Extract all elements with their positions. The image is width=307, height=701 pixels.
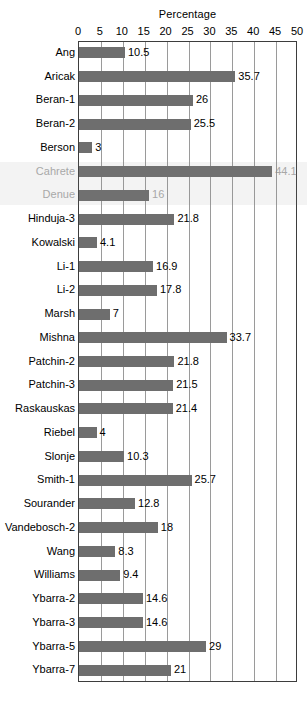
bar: [79, 214, 174, 225]
bar-value-label: 29: [209, 635, 221, 659]
category-label: Slonje: [44, 445, 75, 469]
bar-row: Denue16: [0, 183, 307, 207]
category-label: Smith-1: [37, 468, 75, 492]
category-label: Berson: [40, 136, 75, 160]
bar-value-label: 21.4: [176, 397, 197, 421]
bar-row: Smith-125.7: [0, 468, 307, 492]
bar: [79, 403, 173, 414]
bar: [79, 380, 173, 391]
category-label: Aricak: [44, 65, 75, 89]
axis-title: Percentage: [78, 8, 297, 21]
category-label: Hinduja-3: [28, 207, 75, 231]
bar-row: Wang8.3: [0, 540, 307, 564]
category-label: Beran-1: [36, 88, 75, 112]
category-label: Marsh: [44, 302, 75, 326]
bar: [79, 665, 171, 676]
bar-value-label: 21: [174, 658, 186, 682]
bar-row: Ang10.5: [0, 41, 307, 65]
bar: [79, 332, 227, 343]
bar-row: Beran-126: [0, 88, 307, 112]
bar-row: Williams9.4: [0, 563, 307, 587]
bar: [79, 427, 97, 438]
bar-row: Aricak35.7: [0, 65, 307, 89]
bar: [79, 522, 158, 533]
category-label: Ybarra-7: [32, 658, 75, 682]
bar-value-label: 26: [196, 88, 208, 112]
bar-row: Patchin-221.8: [0, 350, 307, 374]
bar-row: Raskauskas21.4: [0, 397, 307, 421]
bar-row: Beran-225.5: [0, 112, 307, 136]
bar-value-label: 33.7: [230, 326, 251, 350]
bar: [79, 95, 193, 106]
bar-value-label: 18: [161, 516, 173, 540]
bar-row: Ybarra-721: [0, 658, 307, 682]
bar-value-label: 25.5: [194, 112, 215, 136]
bar-row: Patchin-321.5: [0, 373, 307, 397]
bar-value-label: 9.4: [123, 563, 138, 587]
category-label: Wang: [47, 540, 75, 564]
bar: [79, 546, 115, 557]
category-label: Vandebosch-2: [5, 516, 75, 540]
category-label: Patchin-3: [29, 373, 75, 397]
bar-rows: Ang10.5Aricak35.7Beran-126Beran-225.5Ber…: [0, 41, 307, 682]
category-label: Riebel: [44, 421, 75, 445]
category-label: Patchin-2: [29, 350, 75, 374]
bar-row: Riebel4: [0, 421, 307, 445]
bar-row: Li-116.9: [0, 255, 307, 279]
bar: [79, 498, 135, 509]
bar-row: Ybarra-314.6: [0, 611, 307, 635]
bar-value-label: 25.7: [195, 468, 216, 492]
bar-value-label: 21.8: [177, 207, 198, 231]
category-label: Beran-2: [36, 112, 75, 136]
bar-row: Marsh7: [0, 302, 307, 326]
category-label: Raskauskas: [15, 397, 75, 421]
category-label: Kowalski: [32, 231, 75, 255]
bar: [79, 119, 191, 130]
bar: [79, 356, 174, 367]
bar-row: Sourander12.8: [0, 492, 307, 516]
bar-row: Cahrete44.1: [0, 160, 307, 184]
bar-value-label: 35.7: [238, 65, 259, 89]
bar-value-label: 10.3: [127, 445, 148, 469]
bar-value-label: 21.8: [177, 350, 198, 374]
bar-value-label: 14.6: [146, 611, 167, 635]
bar-value-label: 4.1: [100, 231, 115, 255]
bar-value-label: 44.1: [275, 160, 296, 184]
bar: [79, 237, 97, 248]
category-label: Li-2: [57, 278, 75, 302]
bar: [79, 47, 125, 58]
bar: [79, 570, 120, 581]
bar-value-label: 21.5: [176, 373, 197, 397]
bar-row: Slonje10.3: [0, 445, 307, 469]
bar: [79, 166, 272, 177]
bar-row: Li-217.8: [0, 278, 307, 302]
category-label: Ang: [55, 41, 75, 65]
bar-row: Berson3: [0, 136, 307, 160]
bar: [79, 475, 192, 486]
bar: [79, 190, 149, 201]
bar-value-label: 16: [152, 183, 164, 207]
bar: [79, 71, 235, 82]
bar-row: Vandebosch-218: [0, 516, 307, 540]
bar: [79, 593, 143, 604]
category-label: Denue: [43, 183, 75, 207]
bar-value-label: 7: [113, 302, 119, 326]
bar-value-label: 12.8: [138, 492, 159, 516]
bar-value-label: 4: [100, 421, 106, 445]
bar: [79, 261, 153, 272]
bar-row: Hinduja-321.8: [0, 207, 307, 231]
bar: [79, 142, 92, 153]
bar-row: Kowalski4.1: [0, 231, 307, 255]
category-label: Li-1: [57, 255, 75, 279]
bar: [79, 309, 110, 320]
bar-value-label: 14.6: [146, 587, 167, 611]
bar-value-label: 16.9: [156, 255, 177, 279]
category-label: Sourander: [24, 492, 75, 516]
bar-value-label: 10.5: [128, 41, 149, 65]
bar: [79, 451, 124, 462]
bar-row: Ybarra-529: [0, 635, 307, 659]
category-label: Ybarra-3: [32, 611, 75, 635]
bar-chart: Percentage 05101520253035404550 Ang10.5A…: [0, 0, 307, 701]
category-label: Ybarra-2: [32, 587, 75, 611]
category-label: Cahrete: [36, 160, 75, 184]
